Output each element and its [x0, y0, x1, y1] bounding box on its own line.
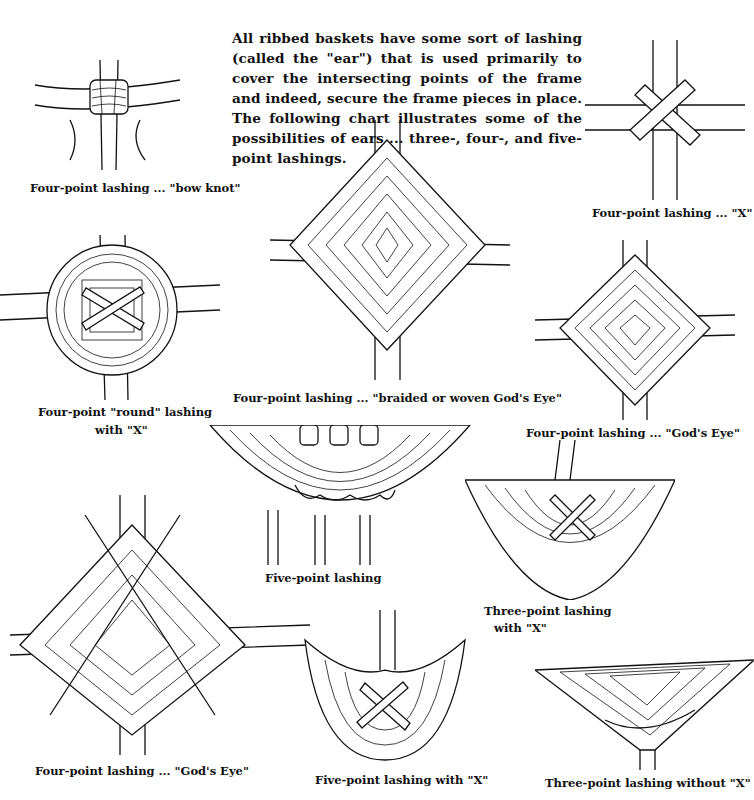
gods-eye-large-illustration: [10, 495, 310, 755]
caption-round-x-line2: with "X": [95, 422, 148, 438]
five-point-x-illustration: [300, 610, 470, 765]
figure-gods-eye-large: [10, 495, 310, 755]
caption-five-point-x: Five-point lashing with "X": [315, 772, 488, 788]
three-point-x-illustration: [465, 440, 675, 600]
caption-three-point-x-line1: Three-point lashing: [484, 603, 612, 619]
round-x-illustration: [0, 235, 220, 400]
figure-gods-eye-small: [535, 240, 735, 420]
caption-bow-knot: Four-point lashing ... "bow knot": [30, 180, 241, 196]
x-lashing-illustration: [585, 40, 745, 200]
bow-knot-illustration: [30, 60, 180, 170]
caption-x: Four-point lashing ... "X": [592, 205, 753, 221]
caption-gods-eye-small: Four-point lashing ... "God's Eye": [526, 425, 740, 441]
caption-braided-gods-eye: Four-point lashing ... "braided or woven…: [233, 390, 562, 406]
figure-braided-gods-eye: [270, 120, 510, 380]
braided-gods-eye-illustration: [270, 120, 510, 380]
figure-x: [585, 40, 745, 200]
caption-three-point-no-x: Three-point lashing without "X": [545, 775, 751, 791]
figure-bow-knot: [30, 60, 180, 170]
figure-five-point-x: [300, 610, 470, 765]
three-point-no-x-illustration: [535, 650, 754, 770]
figure-round-x: [0, 235, 220, 400]
gods-eye-small-illustration: [535, 240, 735, 420]
caption-three-point-x-line2: with "X": [494, 620, 547, 636]
figure-three-point-x: [465, 440, 675, 600]
caption-gods-eye-large: Four-point lashing ... "God's Eye": [35, 763, 249, 779]
caption-round-x-line1: Four-point "round" lashing: [38, 404, 212, 420]
figure-three-point-no-x: [535, 650, 754, 770]
